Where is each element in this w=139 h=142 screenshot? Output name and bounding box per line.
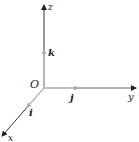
i-label: i <box>29 107 33 118</box>
origin-label: O <box>30 78 39 91</box>
z-axis-label: z <box>47 2 53 12</box>
k-label: k <box>48 47 55 58</box>
x-axis-label: x <box>8 133 13 142</box>
coordinate-axes-diagram: z k O j y i x <box>0 0 139 142</box>
j-label: j <box>68 92 74 103</box>
y-axis-label: y <box>127 91 134 102</box>
